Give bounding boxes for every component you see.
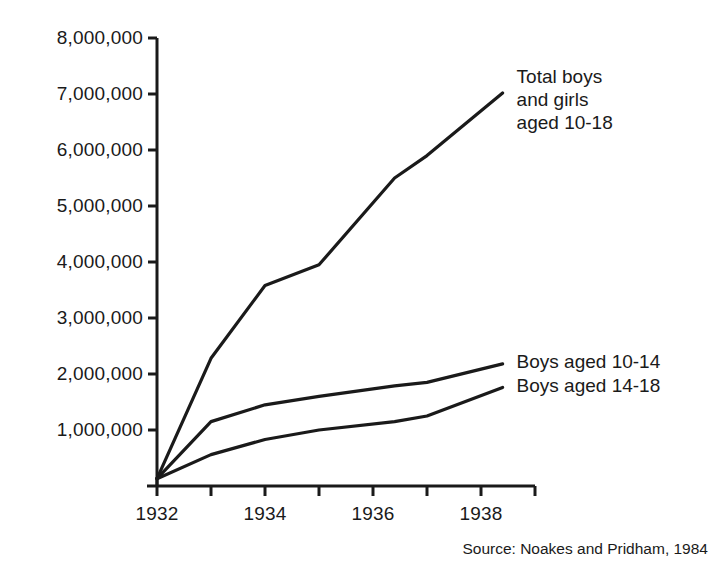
- series-label-boys-aged-14-18: Boys aged 14-18: [517, 374, 661, 397]
- chart-figure: 1,000,0002,000,0003,000,0004,000,0005,00…: [0, 0, 718, 570]
- series-label-boys-aged-10-14: Boys aged 10-14: [517, 350, 661, 373]
- x-axis-tick-label: 1936: [351, 503, 394, 525]
- y-axis-tick-label: 2,000,000: [57, 363, 143, 385]
- series-label-total-boys-and-girls: Total boys and girls aged 10-18: [517, 65, 613, 134]
- y-axis-tick-label: 5,000,000: [57, 195, 143, 217]
- y-axis-tick-label: 7,000,000: [57, 83, 143, 105]
- y-axis-tick-label: 8,000,000: [57, 27, 143, 49]
- x-axis-tick-label: 1934: [243, 503, 286, 525]
- source-note: Source: Noakes and Pridham, 1984: [462, 540, 708, 558]
- x-axis-tick-label: 1932: [135, 503, 178, 525]
- y-axis-tick-label: 1,000,000: [57, 419, 143, 441]
- y-axis-tick-label: 3,000,000: [57, 307, 143, 329]
- y-axis-tick-label: 6,000,000: [57, 139, 143, 161]
- y-axis-tick-label: 4,000,000: [57, 251, 143, 273]
- x-axis-tick-label: 1938: [459, 503, 502, 525]
